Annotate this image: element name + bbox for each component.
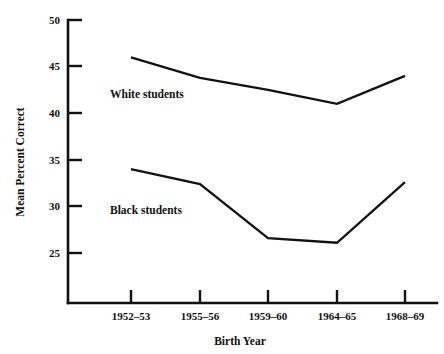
y-tick-label-30: 30 xyxy=(49,200,61,212)
x-tick-label-5: 1968–69 xyxy=(386,310,425,322)
x-axis-title: Birth Year xyxy=(214,335,266,347)
y-tick-label-50: 50 xyxy=(49,14,61,26)
y-tick-label-40: 40 xyxy=(49,107,61,119)
y-axis-title: Mean Percent Correct xyxy=(14,107,26,217)
x-tick-label-2: 1955–56 xyxy=(181,310,220,322)
line-chart: 50 45 40 35 30 25 Mean Percent Correct 1… xyxy=(0,0,444,354)
chart-container: 50 45 40 35 30 25 Mean Percent Correct 1… xyxy=(0,0,444,354)
x-tick-label-3: 1959–60 xyxy=(249,310,288,322)
series-annotation-black-students: Black students xyxy=(110,204,182,216)
y-tick-label-35: 35 xyxy=(49,154,61,166)
y-tick-label-25: 25 xyxy=(49,247,61,259)
series-annotation-white-students: White students xyxy=(110,88,184,100)
x-tick-label-4: 1964–65 xyxy=(318,310,357,322)
x-tick-label-1: 1952–53 xyxy=(112,310,151,322)
y-tick-label-45: 45 xyxy=(49,60,61,72)
